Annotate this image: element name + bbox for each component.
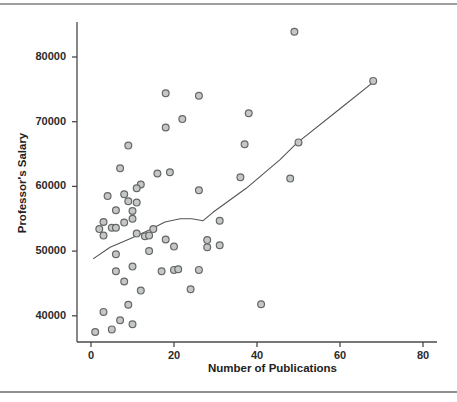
data-point (121, 219, 128, 226)
data-point (129, 263, 136, 270)
data-point (129, 321, 136, 328)
data-point (96, 226, 103, 233)
data-point (187, 286, 194, 293)
data-point (162, 90, 169, 97)
data-point (291, 28, 298, 35)
data-point (204, 237, 211, 244)
data-point (196, 267, 203, 274)
y-tick-label: 40000 (28, 309, 66, 321)
data-point (179, 116, 186, 123)
data-point (100, 232, 107, 239)
y-tick-label: 80000 (28, 50, 66, 62)
data-point (245, 110, 252, 117)
data-point (125, 142, 132, 149)
data-point (241, 141, 248, 148)
y-tick-label: 70000 (28, 115, 66, 127)
data-point (167, 169, 174, 176)
scatter-plot (0, 0, 457, 402)
data-point (216, 242, 223, 249)
data-point (125, 301, 132, 308)
x-tick-label: 20 (156, 349, 192, 361)
x-tick-label: 0 (73, 349, 109, 361)
data-point (171, 243, 178, 250)
data-point (175, 266, 182, 273)
data-point (162, 236, 169, 243)
data-point (113, 268, 120, 275)
data-point (100, 309, 107, 316)
data-point (92, 329, 99, 336)
data-point (113, 251, 120, 258)
x-tick-label: 40 (239, 349, 275, 361)
data-point (196, 187, 203, 194)
data-point (100, 219, 107, 226)
y-tick-label: 50000 (28, 244, 66, 256)
data-point (287, 175, 294, 182)
x-tick-label: 60 (322, 349, 358, 361)
data-point (121, 278, 128, 285)
data-point (117, 317, 124, 324)
data-point (146, 248, 153, 255)
data-point (125, 198, 132, 205)
data-point (258, 301, 265, 308)
data-point (162, 124, 169, 131)
x-tick-label: 80 (405, 349, 441, 361)
data-point (129, 208, 136, 215)
data-point (113, 207, 120, 214)
data-point (133, 230, 140, 237)
data-point (370, 78, 377, 85)
data-point (196, 92, 203, 99)
data-point (117, 165, 124, 172)
data-point (154, 170, 161, 177)
data-point (108, 326, 115, 333)
y-axis-title: Professor's Salary (16, 133, 28, 234)
y-tick-label: 60000 (28, 179, 66, 191)
figure-page: Number of Publications Professor's Salar… (0, 0, 457, 402)
data-point (146, 232, 153, 239)
data-point (104, 193, 111, 200)
data-point (137, 287, 144, 294)
data-point (121, 191, 128, 198)
x-axis-title: Number of Publications (0, 362, 457, 374)
data-point (295, 139, 302, 146)
data-point (158, 268, 165, 275)
data-point (129, 215, 136, 222)
data-point (216, 217, 223, 224)
data-point (133, 199, 140, 206)
data-point (204, 244, 211, 251)
data-point (150, 226, 157, 233)
data-point (113, 224, 120, 231)
data-point (133, 185, 140, 192)
data-point (237, 174, 244, 181)
